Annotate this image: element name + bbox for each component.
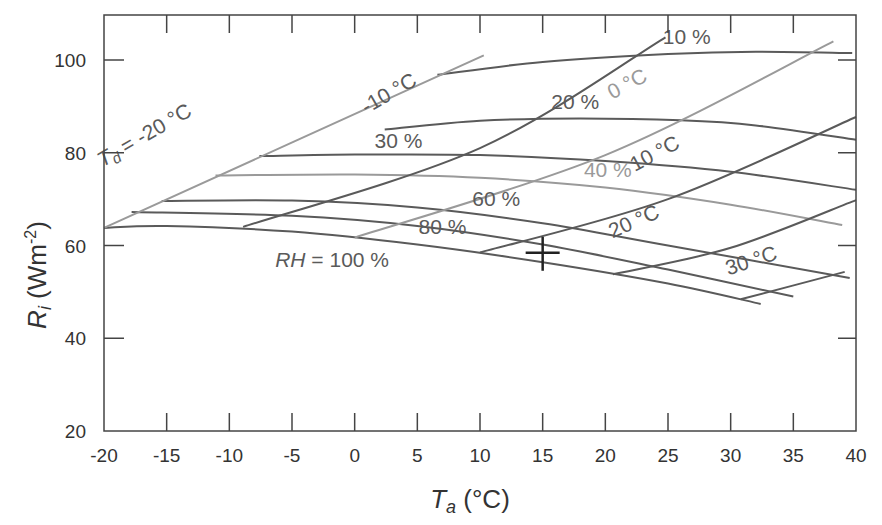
curve-label: 20 °C: [605, 200, 663, 242]
x-tick-label: 20: [595, 445, 616, 466]
x-tick-label: 15: [532, 445, 553, 466]
series-line-td-20-c: [104, 55, 484, 228]
x-axis-label: Ta (°C): [430, 484, 510, 517]
curve-label: 10 °C: [626, 131, 683, 176]
x-tick-label: -5: [284, 445, 301, 466]
curve-label: 20 %: [551, 90, 599, 113]
annotations: 10 %20 %30 %40 %60 %80 %RH = 100 %Td = -…: [93, 25, 780, 279]
y-tick-label: 80: [65, 143, 86, 164]
curve-label: 40 %: [584, 158, 632, 181]
curve-label: 30 %: [375, 129, 423, 152]
y-axis-label-sup: -2: [22, 230, 39, 244]
curve-label: Td = -20 °C: [93, 98, 197, 173]
y-axis-label: Ri (Wm-2): [22, 221, 55, 329]
plot-frame: [104, 15, 856, 431]
x-tick-label: 40: [845, 445, 866, 466]
x-tick-label: -15: [153, 445, 180, 466]
x-tick-label: 0: [349, 445, 360, 466]
curve-label: 80 %: [418, 215, 466, 238]
y-tick-label: 40: [65, 328, 86, 349]
x-tick-label: -20: [90, 445, 117, 466]
x-axis-label-unit: (°C): [456, 484, 510, 514]
y-axis-label-close: ): [22, 221, 52, 230]
curve-label: 10 %: [663, 25, 711, 48]
x-tick-label: -10: [216, 445, 243, 466]
y-axis-label-unit: (Wm: [22, 244, 52, 306]
y-tick-label: 100: [54, 50, 86, 71]
y-axis-label-main: R: [22, 310, 52, 329]
x-tick-label: 25: [657, 445, 678, 466]
curve-label: 0 °C: [603, 64, 650, 104]
y-tick-label: 20: [65, 421, 86, 442]
curve-label: 60 %: [472, 187, 520, 210]
x-tick-label: 30: [720, 445, 741, 466]
x-axis-label-sub: a: [446, 497, 456, 517]
x-tick-label: 5: [412, 445, 423, 466]
curve-label: -10 °C: [357, 68, 420, 118]
chart: 10 %20 %30 %40 %60 %80 %RH = 100 %Td = -…: [0, 0, 882, 525]
y-tick-label: 60: [65, 236, 86, 257]
series-line-td-10-c: [243, 37, 665, 227]
series-line-td-30-c: [741, 272, 845, 299]
curve-label: RH = 100 %: [275, 248, 389, 271]
x-tick-label: 10: [469, 445, 490, 466]
x-tick-label: 35: [783, 445, 804, 466]
series-line-rh-20: [385, 118, 856, 139]
